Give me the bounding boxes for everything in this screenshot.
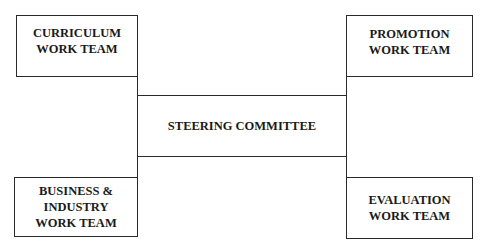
evaluation-work-team-label: EVALUATION WORK TEAM	[368, 192, 450, 224]
curriculum-work-team-box: CURRICULUM WORK TEAM	[16, 15, 138, 77]
connector-bottom-left	[137, 156, 138, 178]
business-industry-work-team-label: BUSINESS & INDUSTRY WORK TEAM	[35, 183, 116, 231]
promotion-work-team-box: PROMOTION WORK TEAM	[346, 15, 473, 77]
promotion-work-team-label: PROMOTION WORK TEAM	[369, 26, 450, 58]
connector-bottom-right	[346, 156, 347, 178]
steering-committee-label: STEERING COMMITTEE	[168, 118, 316, 134]
business-industry-work-team-box: BUSINESS & INDUSTRY WORK TEAM	[14, 177, 138, 237]
connector-top-right	[346, 77, 347, 96]
connector-top-left	[137, 77, 138, 96]
evaluation-work-team-box: EVALUATION WORK TEAM	[346, 177, 473, 239]
curriculum-work-team-label: CURRICULUM WORK TEAM	[33, 25, 121, 57]
steering-committee-box: STEERING COMMITTEE	[137, 95, 347, 157]
